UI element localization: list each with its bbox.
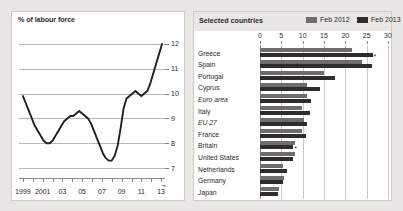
- bar-axis-label: 15: [320, 32, 328, 39]
- x-axis-tick: [23, 178, 24, 182]
- x-axis-tick: [122, 178, 123, 182]
- y-axis-label: 9: [171, 118, 175, 119]
- bar-axis-label: 10: [299, 32, 307, 39]
- x-axis-tick: [62, 178, 63, 182]
- bar-feb-2013: [260, 157, 293, 161]
- x-axis-tick: [92, 178, 93, 182]
- y-axis-tick: [165, 118, 169, 119]
- bar-feb-2013: [260, 180, 283, 184]
- unemployment-line-series: [19, 34, 165, 178]
- x-axis-label: 07: [98, 188, 106, 195]
- y-axis-label: 10: [171, 93, 179, 94]
- x-axis-label: 11: [138, 188, 145, 195]
- bar-feb-2013: [260, 76, 335, 80]
- bar-axis-tick: [303, 41, 304, 44]
- bar-axis-tick: [324, 41, 325, 44]
- x-axis-tick: [151, 178, 152, 182]
- y-axis-label: 7: [171, 168, 175, 169]
- bar-feb-2012: [260, 83, 307, 87]
- bar-axis-label: 25: [363, 32, 371, 39]
- bar-feb-2012: [260, 176, 284, 180]
- bar-feb-2012: [260, 141, 295, 145]
- legend-item-feb-2013[interactable]: Feb 2013: [357, 16, 401, 23]
- axis-break-icon: ⌁: [162, 182, 166, 190]
- country-label: Italy: [198, 111, 210, 112]
- bar-feb-2013: [260, 53, 373, 57]
- y-axis-tick: [165, 69, 169, 70]
- line-chart-panel: % of labour force 789101112 199920010305…: [11, 11, 185, 201]
- bar-axis-tick: [260, 41, 261, 44]
- line-plot-area: 789101112: [19, 34, 159, 174]
- bar-chart-panel: Selected countries Feb 2012Feb 2013 0510…: [193, 11, 392, 201]
- x-axis-tick: [112, 178, 113, 182]
- legend-swatch: [306, 17, 317, 23]
- bar-axis-tick: [388, 41, 389, 44]
- x-axis-tick: [141, 178, 142, 182]
- bar-feb-2013: [260, 111, 310, 115]
- y-axis-tick: [165, 44, 169, 45]
- x-axis-tick: [33, 178, 34, 182]
- bar-axis-label: 30: [384, 32, 392, 39]
- bar-feb-2012: [260, 187, 279, 191]
- bar-feb-2012: [260, 94, 307, 98]
- bar-axis-label: 20: [341, 32, 349, 39]
- x-axis-tick: [132, 178, 133, 182]
- x-axis-label: 05: [78, 188, 86, 195]
- country-label: France: [198, 134, 219, 135]
- bar-annotation-asterisk: *: [294, 148, 297, 149]
- bar-feb-2013: [260, 122, 307, 126]
- bar-feb-2012: [260, 106, 302, 110]
- country-label: Euro area: [198, 99, 228, 100]
- country-label: Greece: [198, 53, 220, 54]
- country-label: Netherlands: [198, 169, 235, 170]
- x-axis-label: 03: [58, 188, 66, 195]
- y-axis-label: 8: [171, 143, 175, 144]
- y-axis-tick: [165, 143, 169, 144]
- figure-container: % of labour force 789101112 199920010305…: [0, 0, 403, 211]
- legend-label: Feb 2013: [371, 16, 401, 23]
- y-axis-label: 12: [171, 43, 179, 44]
- y-axis-tick: [165, 168, 169, 169]
- bar-feb-2013: [260, 99, 311, 103]
- legend-item-feb-2012[interactable]: Feb 2012: [306, 16, 350, 23]
- country-label: Germany: [198, 180, 226, 181]
- bar-feb-2013: [260, 64, 372, 68]
- x-axis-tick: [102, 178, 103, 182]
- x-axis-tick: [82, 178, 83, 182]
- line-chart-title: % of labour force: [18, 15, 75, 24]
- bar-feb-2012: [260, 152, 295, 156]
- bar-feb-2012: [260, 48, 352, 52]
- bar-axis-tick: [367, 41, 368, 44]
- bar-feb-2012: [260, 164, 283, 168]
- bar-annotation-asterisk: *: [374, 56, 377, 57]
- country-label: Portugal: [198, 76, 223, 77]
- bar-axis-tick: [345, 41, 346, 44]
- bar-gridline: [388, 45, 389, 199]
- y-axis-tick: [165, 94, 169, 95]
- country-label: United States: [198, 157, 239, 158]
- country-label: Cyprus: [198, 87, 220, 88]
- country-label: Spain: [198, 64, 215, 65]
- bar-feb-2013: [260, 192, 278, 196]
- legend-swatch: [357, 17, 368, 23]
- bar-feb-2013: [260, 145, 293, 149]
- bar-feb-2013: [260, 134, 306, 138]
- x-axis-label: 2001: [35, 188, 51, 195]
- bar-feb-2012: [260, 71, 324, 75]
- country-label: Britain: [198, 145, 217, 146]
- x-axis-label: 1999: [15, 188, 31, 195]
- x-axis-tick: [53, 178, 54, 182]
- country-label: EU 27: [198, 122, 217, 123]
- x-axis-label: 09: [118, 188, 126, 195]
- legend-label: Feb 2012: [320, 16, 350, 23]
- bar-axis-label: 0: [258, 32, 262, 39]
- bar-feb-2012: [260, 118, 304, 122]
- country-label: Japan: [198, 192, 217, 193]
- bar-feb-2013: [260, 87, 320, 91]
- bar-feb-2012: [260, 60, 362, 64]
- bar-feb-2013: [260, 169, 287, 173]
- bar-feb-2012: [260, 129, 302, 133]
- bar-axis-label: 5: [279, 32, 283, 39]
- y-axis-label: 11: [171, 68, 178, 69]
- x-axis-tick: [43, 178, 44, 182]
